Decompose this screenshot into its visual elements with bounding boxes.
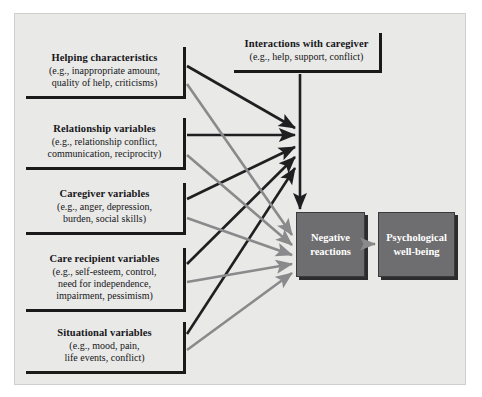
negative-reactions-box: Negative reactions <box>296 212 365 277</box>
predictor-box-line3: impairment, pessimism) <box>56 290 153 302</box>
psychological-wellbeing-line2: well-being <box>393 245 439 258</box>
predictor-box-title: Helping characteristics <box>52 52 158 64</box>
negative-reactions-line2: reactions <box>310 245 351 258</box>
predictor-box-title: Caregiver variables <box>60 188 150 200</box>
interactions-box-title: Interactions with caregiver <box>245 38 369 50</box>
predictor-box-line2: life events, conflict) <box>64 352 144 364</box>
predictor-box-care-recipient-variables: Care recipient variables (e.g., self-est… <box>26 248 186 312</box>
predictor-box-line1: (e.g., inappropriate amount, <box>49 65 160 77</box>
interactions-box-line1: (e.g., help, support, conflict) <box>250 51 364 63</box>
predictor-box-title: Situational variables <box>57 327 152 339</box>
negative-reactions-line1: Negative <box>311 231 350 244</box>
predictor-box-line2: communication, reciprocity) <box>48 148 162 160</box>
predictor-box-line1: (e.g., relationship conflict, <box>52 136 158 148</box>
predictor-box-caregiver-variables: Caregiver variables (e.g., anger, depres… <box>26 183 186 235</box>
predictor-box-relationship-variables: Relationship variables (e.g., relationsh… <box>26 118 186 170</box>
predictor-box-line1: (e.g., self-esteem, control, <box>52 266 156 278</box>
predictor-box-helping-characteristics: Helping characteristics (e.g., inappropr… <box>26 47 186 99</box>
predictor-box-situational-variables: Situational variables (e.g., mood, pain,… <box>26 322 186 374</box>
predictor-box-line1: (e.g., mood, pain, <box>69 340 139 352</box>
psychological-wellbeing-box: Psychological well-being <box>378 212 455 277</box>
predictor-box-line2: burden, social skills) <box>63 213 146 225</box>
predictor-box-line2: quality of help, criticisms) <box>52 77 158 89</box>
interactions-with-caregiver-box: Interactions with caregiver (e.g., help,… <box>234 33 382 73</box>
predictor-box-line1: (e.g., anger, depression, <box>57 201 152 213</box>
predictor-box-line2: need for independence, <box>58 278 151 290</box>
predictor-box-title: Care recipient variables <box>50 253 160 265</box>
predictor-box-title: Relationship variables <box>53 123 155 135</box>
psychological-wellbeing-line1: Psychological <box>386 231 447 244</box>
figure-canvas: Helping characteristics (e.g., inappropr… <box>0 0 482 397</box>
